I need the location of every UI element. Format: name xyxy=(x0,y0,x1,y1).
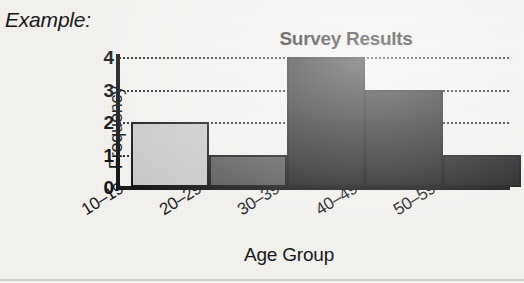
y-tick-label-4: 4 xyxy=(94,48,114,67)
bar-40-49 xyxy=(365,90,443,188)
bar-30-39 xyxy=(287,57,365,187)
y-axis-title-container: Frequency xyxy=(57,55,81,189)
plot-area xyxy=(119,57,509,187)
chart-title: Survey Results xyxy=(241,28,451,50)
bar-50-59 xyxy=(443,155,521,188)
survey-results-bar-chart: Survey Results Frequency 4 3 2 1 0 10–19… xyxy=(0,0,524,283)
bar-10-19 xyxy=(131,122,209,187)
page-bottom-rule xyxy=(0,279,524,281)
bar-20-29 xyxy=(209,155,287,188)
y-tick-label-2: 2 xyxy=(94,113,114,132)
x-axis-title: Age Group xyxy=(199,244,379,266)
y-tick-label-1: 1 xyxy=(94,146,114,165)
y-tick-label-3: 3 xyxy=(94,81,114,100)
